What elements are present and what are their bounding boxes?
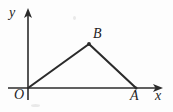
origin-label: O — [14, 88, 24, 102]
segment-BA — [89, 44, 136, 88]
point-label-A: A — [130, 89, 139, 103]
point-label-B: B — [93, 27, 102, 41]
coordinate-figure: y x O A B — [0, 0, 173, 112]
y-axis-label: y — [9, 6, 15, 20]
segment-OB — [28, 44, 89, 88]
x-axis-label: x — [155, 89, 161, 103]
vertex-point-B — [87, 42, 91, 46]
figure-canvas — [0, 0, 173, 112]
